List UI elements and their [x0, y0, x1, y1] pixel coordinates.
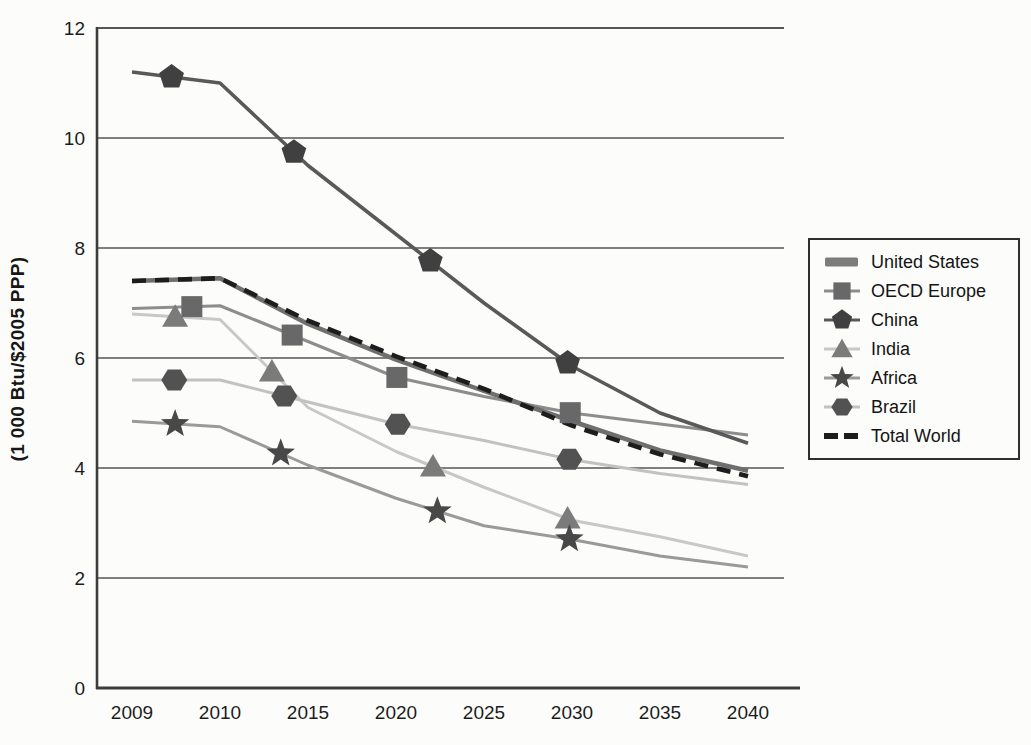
legend-label: OECD Europe	[871, 282, 986, 300]
y-tick-label-8: 8	[74, 238, 85, 259]
oecd-europe-square-marker	[282, 325, 303, 346]
dashed-line-swatch	[822, 424, 862, 448]
china-pentagon-marker	[159, 64, 184, 88]
brazil-hexagon-marker	[271, 386, 297, 407]
brazil-hexagon-marker	[161, 370, 187, 391]
legend-box: United States OECD Europe China India Af…	[808, 238, 1020, 460]
x-tick-label-2040: 2040	[727, 702, 769, 723]
legend-item-oecd-europe: OECD Europe	[822, 278, 1014, 304]
africa-star-marker	[161, 409, 190, 436]
brazil-hexagon-marker	[556, 449, 582, 470]
oecd-europe-square-marker	[560, 402, 581, 423]
square-marker-icon	[822, 279, 862, 303]
x-tick-label-2015: 2015	[287, 702, 329, 723]
x-tick-label-2020: 2020	[375, 702, 417, 723]
triangle-marker-icon	[822, 337, 862, 361]
africa-star-marker	[266, 438, 295, 465]
y-tick-label-12: 12	[64, 18, 85, 39]
y-tick-label-4: 4	[74, 458, 85, 479]
y-tick-label-10: 10	[64, 128, 85, 149]
legend-label: Total World	[871, 427, 961, 445]
legend-item-africa: Africa	[822, 365, 1014, 391]
legend-item-china: China	[822, 307, 1014, 333]
legend-item-total-world: Total World	[822, 423, 1014, 449]
x-tick-label-2009: 2009	[111, 702, 153, 723]
oecd-europe-square-marker	[386, 367, 407, 388]
x-tick-label-2010: 2010	[199, 702, 241, 723]
india-triangle-marker	[555, 506, 581, 528]
x-tick-label-2035: 2035	[639, 702, 681, 723]
africa-star-marker	[423, 496, 452, 523]
x-tick-label-2030: 2030	[551, 702, 593, 723]
india-triangle-marker	[420, 454, 446, 477]
united-states-line-swatch	[822, 250, 862, 274]
y-tick-label-0: 0	[74, 678, 85, 699]
oecd-europe-square-marker	[181, 296, 202, 317]
legend-label: Africa	[871, 369, 917, 387]
x-tick-label-2025: 2025	[463, 702, 505, 723]
y-tick-label-2: 2	[74, 568, 85, 589]
y-tick-label-6: 6	[74, 348, 85, 369]
pentagon-marker-icon	[822, 308, 862, 332]
star-marker-icon	[822, 366, 862, 390]
legend-label: Brazil	[871, 398, 916, 416]
legend-label: India	[871, 340, 910, 358]
legend-label: United States	[871, 253, 979, 271]
energy-intensity-chart: 0246810122009201020152020202520302035204…	[0, 0, 1031, 745]
series-line-india	[132, 314, 748, 556]
china-pentagon-marker	[555, 350, 580, 374]
china-pentagon-marker	[418, 248, 443, 272]
brazil-hexagon-marker	[385, 414, 411, 435]
legend-item-brazil: Brazil	[822, 394, 1014, 420]
series-line-africa	[132, 421, 748, 567]
hexagon-marker-icon	[822, 395, 862, 419]
y-axis-title: (1 000 Btu/$2005 PPP)	[7, 227, 33, 491]
legend-label: China	[871, 311, 918, 329]
legend-item-united-states: United States	[822, 249, 1014, 275]
legend-item-india: India	[822, 336, 1014, 362]
